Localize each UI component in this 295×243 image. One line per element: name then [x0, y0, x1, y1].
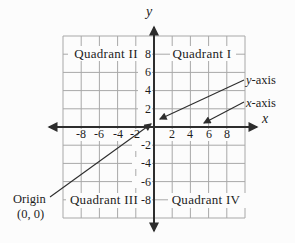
quadrant-iii-label: Quadrant III	[70, 192, 138, 207]
coordinate-plane-figure: y x -8 -6 -4 -2 2 4 6 8 8 6 4 2 -2 -4 -6…	[0, 0, 295, 243]
x-tick-label: -8	[76, 127, 86, 141]
x-tick-label: 4	[187, 127, 193, 141]
x-axis-letter: x	[261, 111, 269, 126]
x-tick-label: 6	[206, 127, 212, 141]
y-tick-label: 8	[145, 47, 151, 61]
x-tick-label: 2	[169, 127, 175, 141]
y-axis-callout-label: y-axis	[244, 73, 276, 87]
x-axis-callout-arrow	[204, 102, 244, 123]
x-tick-label: -2	[130, 127, 140, 141]
quadrant-iv-label: Quadrant IV	[172, 192, 241, 207]
origin-callout-label: Origin	[13, 192, 46, 206]
x-tick-label: -4	[113, 127, 123, 141]
y-axis-letter: y	[144, 4, 153, 19]
y-tick-label: -4	[141, 156, 151, 170]
y-tick-label: -8	[141, 193, 151, 207]
y-tick-label: -2	[141, 138, 151, 152]
quadrant-i-label: Quadrant I	[173, 46, 232, 61]
quadrant-ii-label: Quadrant II	[74, 46, 138, 61]
x-tick-label: 8	[224, 127, 230, 141]
y-tick-label: 2	[145, 102, 151, 116]
origin-point-label: (0, 0)	[17, 207, 44, 221]
y-tick-label: 4	[145, 83, 151, 97]
x-axis-callout-label: x-axis	[245, 96, 276, 110]
y-tick-label: 6	[145, 65, 151, 79]
y-tick-label: -6	[141, 175, 151, 189]
coordinate-plane-svg: y x -8 -6 -4 -2 2 4 6 8 8 6 4 2 -2 -4 -6…	[0, 0, 295, 243]
x-tick-label: -6	[94, 127, 104, 141]
